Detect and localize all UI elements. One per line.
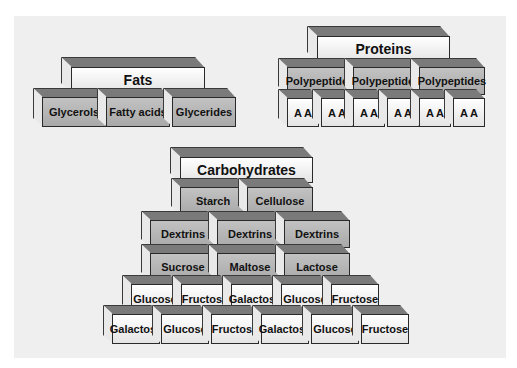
block-label: Glycerides: [172, 97, 236, 127]
block-label: Glycerols: [42, 97, 106, 127]
block-label: Fatty acids: [106, 97, 170, 127]
block-label: Starch: [180, 187, 246, 215]
block-label: Fructose: [361, 314, 409, 344]
block-label: Cellulose: [247, 187, 313, 215]
block-label: Dextrins: [284, 220, 350, 248]
block-label: Glucose: [311, 314, 359, 344]
block-label: A A: [453, 98, 485, 127]
block-label: Dextrins: [150, 220, 216, 248]
block-label: Galactose: [261, 314, 309, 344]
block-label: Glucose: [161, 314, 209, 344]
block-label: Dextrins: [217, 220, 283, 248]
block-label: Fructose: [211, 314, 259, 344]
